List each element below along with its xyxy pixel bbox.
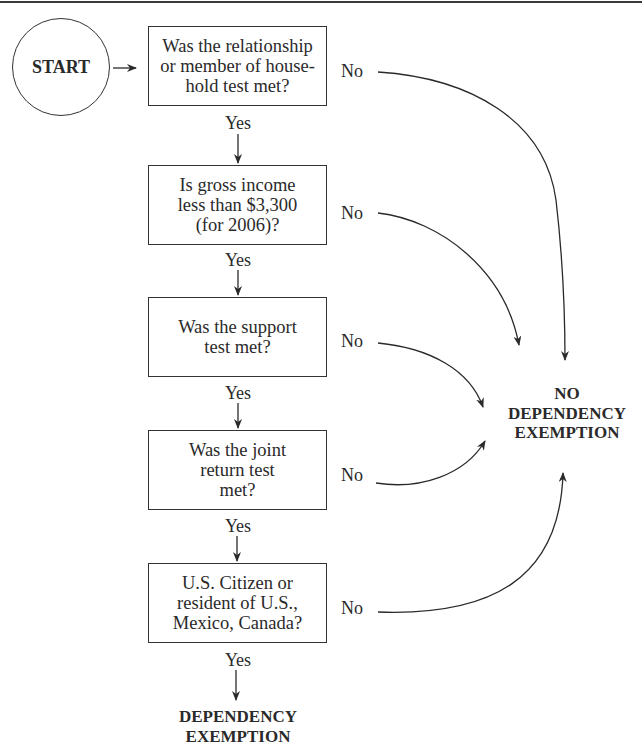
- outcome-line: EXEMPTION: [500, 423, 634, 443]
- decision-citizenship-test: U.S. Citizen or resident of U.S., Mexico…: [148, 563, 327, 643]
- decision-text: Is gross income less than $3,300 (for 20…: [178, 175, 298, 235]
- decision-text: U.S. Citizen or resident of U.S., Mexico…: [173, 573, 302, 633]
- decision-text: Was the support test met?: [178, 317, 297, 357]
- decision-text: Was the relationship or member of house-…: [160, 36, 315, 96]
- outcome-line: EXEMPTION: [168, 727, 308, 747]
- arrow-no-q1: [378, 72, 565, 360]
- yes-label: Yes: [222, 650, 254, 670]
- yes-label: Yes: [222, 383, 254, 403]
- yes-label: Yes: [222, 250, 254, 270]
- decision-relationship-test: Was the relationship or member of house-…: [148, 26, 327, 106]
- start-label: START: [32, 57, 90, 78]
- decision-support-test: Was the support test met?: [148, 297, 327, 377]
- no-label: No: [341, 203, 363, 223]
- decision-joint-return-test: Was the joint return test met?: [148, 430, 327, 510]
- yes-label: Yes: [222, 113, 254, 133]
- arrow-no-q5: [378, 473, 563, 612]
- outcome-line: DEPENDENCY: [168, 707, 308, 727]
- yes-label: Yes: [222, 516, 254, 536]
- no-label: No: [341, 598, 363, 618]
- arrow-no-q2: [378, 213, 519, 345]
- arrow-no-q3: [378, 343, 483, 407]
- decision-gross-income: Is gross income less than $3,300 (for 20…: [148, 165, 327, 245]
- outcome-no-dependency-exemption: NO DEPENDENCY EXEMPTION: [500, 384, 634, 443]
- start-node: START: [12, 18, 110, 116]
- arrow-no-q4: [376, 441, 485, 485]
- no-label: No: [341, 331, 363, 351]
- outcome-line: DEPENDENCY: [500, 404, 634, 424]
- outcome-line: NO: [500, 384, 634, 404]
- outcome-dependency-exemption: DEPENDENCY EXEMPTION: [168, 707, 308, 746]
- decision-text: Was the joint return test met?: [189, 440, 286, 500]
- no-label: No: [341, 61, 363, 81]
- no-label: No: [341, 465, 363, 485]
